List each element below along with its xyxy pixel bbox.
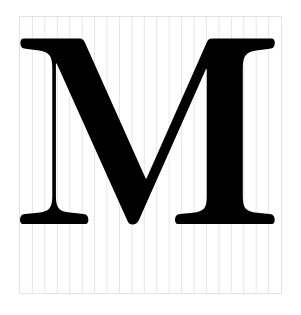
ruled-grid-frame bbox=[19, 16, 282, 294]
specimen-canvas bbox=[0, 0, 301, 315]
vertical-grid-lines bbox=[20, 17, 281, 293]
